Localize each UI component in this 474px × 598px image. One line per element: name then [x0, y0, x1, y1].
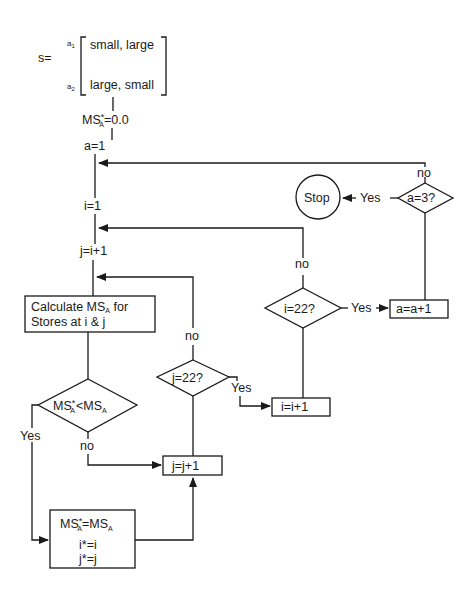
i-increment-label: i=i+1 — [281, 400, 308, 414]
strategy-matrix: s= a1 a2 small, large large, small — [38, 37, 166, 95]
compare-yes-label: Yes — [20, 429, 40, 443]
j-increment-label: j=j+1 — [171, 459, 199, 473]
i-check-label: i=22? — [284, 302, 315, 316]
matrix-label: s= — [38, 51, 52, 65]
j-check-label: j=22? — [171, 371, 203, 385]
a-check-label: a=3? — [407, 191, 435, 205]
init-ms-step: MS*A=0.0 — [82, 112, 129, 128]
update-line3: j*=j — [78, 552, 97, 566]
init-i-step: i=1 — [84, 199, 101, 213]
stop-label: Stop — [304, 191, 330, 205]
compare-condition: MS*A<MSA — [53, 398, 107, 414]
right-bracket — [161, 37, 166, 95]
row-label-a2: a2 — [67, 82, 75, 92]
update-line2: i*=i — [79, 538, 97, 552]
matrix-row-1: small, large — [90, 38, 154, 52]
calculate-line1: Calculate MSA for — [31, 300, 128, 314]
j-check-yes-label: Yes — [231, 381, 251, 395]
i-check-yes-label: Yes — [351, 301, 371, 315]
calculate-line2: Stores at i & j — [31, 315, 105, 329]
a-check-no-label: no — [417, 166, 431, 180]
a-increment-label: a=a+1 — [396, 302, 432, 316]
init-j-step: j=i+1 — [79, 244, 107, 258]
matrix-row-2: large, small — [90, 78, 154, 92]
update-line1: MS*A=MSA — [60, 516, 113, 532]
row-label-a1: a1 — [67, 39, 75, 49]
init-a-step: a=1 — [84, 139, 105, 153]
left-bracket — [81, 37, 86, 95]
flowchart: s= a1 a2 small, large large, small MS*A=… — [0, 0, 474, 598]
compare-no-label: no — [80, 439, 94, 453]
j-check-no-label: no — [185, 329, 199, 343]
a-check-yes-label: Yes — [360, 191, 380, 205]
i-check-no-label: no — [295, 257, 309, 271]
